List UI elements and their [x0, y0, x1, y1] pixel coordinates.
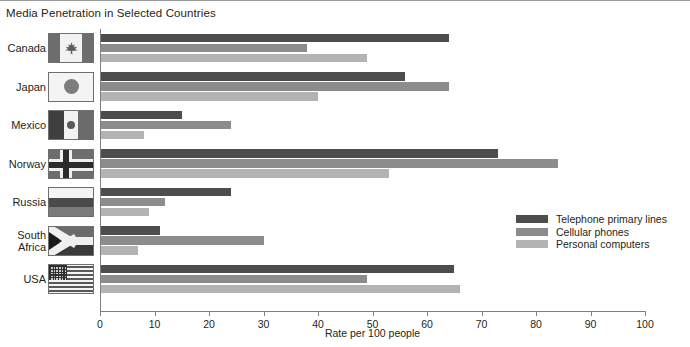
legend-swatch: [516, 228, 548, 236]
x-tick-mark: [536, 311, 537, 316]
canada-flag: [48, 33, 94, 63]
x-tick-mark: [209, 311, 210, 316]
country-label: Canada: [2, 42, 46, 54]
usa-star: [62, 270, 64, 272]
usa-star: [54, 276, 56, 278]
legend-label: Cellular phones: [556, 226, 629, 238]
usa-star: [62, 273, 64, 275]
x-tick-mark: [373, 311, 374, 316]
legend-item: Telephone primary lines: [516, 213, 667, 226]
usa-star: [51, 270, 53, 272]
usa-star: [56, 276, 58, 278]
south-africa-flag: [48, 226, 94, 256]
usa-star: [59, 270, 61, 272]
y-axis-line: [100, 29, 101, 311]
usa-flag: [48, 264, 94, 294]
legend-item: Cellular phones: [516, 226, 667, 239]
usa-star: [65, 276, 67, 278]
usa-star: [65, 273, 67, 275]
x-tick-mark: [155, 311, 156, 316]
usa-star: [65, 267, 67, 269]
country-label: SouthAfrica: [2, 229, 46, 253]
mexico-seal: [67, 121, 75, 129]
legend-label: Personal computers: [556, 238, 649, 250]
plot-area: 0102030405060708090100: [100, 29, 645, 311]
usa-star: [59, 273, 61, 275]
x-tick-mark: [318, 311, 319, 316]
japan-flag: [48, 72, 94, 102]
usa-star: [62, 276, 64, 278]
usa-star: [51, 273, 53, 275]
usa-star: [56, 278, 58, 280]
x-tick-mark: [427, 311, 428, 316]
usa-star: [59, 276, 61, 278]
x-axis-label: Rate per 100 people: [100, 327, 645, 339]
usa-star: [56, 273, 58, 275]
mexico-flag: [48, 110, 94, 140]
usa-star: [59, 278, 61, 280]
usa-star: [51, 278, 53, 280]
country-label: Russia: [2, 196, 46, 208]
legend-label: Telephone primary lines: [556, 213, 667, 225]
country-label: Japan: [2, 81, 46, 93]
russia-flag: [48, 187, 94, 217]
japan-sun-disc: [64, 79, 79, 94]
usa-star: [56, 267, 58, 269]
x-tick-mark: [482, 311, 483, 316]
legend-item: Personal computers: [516, 238, 667, 251]
x-tick-mark: [264, 311, 265, 316]
x-tick-mark: [100, 311, 101, 316]
usa-star: [62, 278, 64, 280]
chart-legend: Telephone primary linesCellular phonesPe…: [516, 213, 667, 251]
usa-star: [59, 267, 61, 269]
legend-swatch: [516, 215, 548, 223]
usa-star: [54, 278, 56, 280]
usa-star: [51, 267, 53, 269]
x-tick-mark: [645, 311, 646, 316]
legend-swatch: [516, 240, 548, 248]
chart-container: Media Penetration in Selected Countries …: [0, 0, 690, 347]
usa-star: [62, 267, 64, 269]
country-label: Mexico: [2, 119, 46, 131]
country-label: USA: [2, 273, 46, 285]
usa-star: [65, 270, 67, 272]
usa-star: [51, 276, 53, 278]
usa-star: [54, 270, 56, 272]
usa-canton: [49, 265, 67, 280]
usa-star: [65, 278, 67, 280]
norway-flag: [48, 149, 94, 179]
usa-star: [54, 273, 56, 275]
usa-star: [56, 270, 58, 272]
x-tick-mark: [591, 311, 592, 316]
usa-star: [54, 267, 56, 269]
chart-title: Media Penetration in Selected Countries: [6, 7, 216, 19]
country-label: Norway: [2, 158, 46, 170]
maple-leaf-icon: [64, 41, 79, 56]
